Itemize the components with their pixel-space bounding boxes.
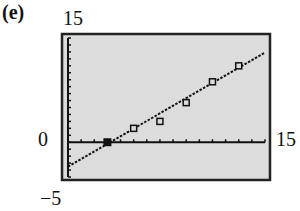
data-point — [131, 125, 137, 131]
data-point — [209, 79, 215, 85]
data-point — [157, 118, 163, 124]
graph-screen — [0, 0, 300, 211]
screen-background — [62, 34, 270, 180]
data-point — [236, 63, 242, 69]
highlighted-point — [103, 138, 111, 146]
data-point — [183, 100, 189, 106]
